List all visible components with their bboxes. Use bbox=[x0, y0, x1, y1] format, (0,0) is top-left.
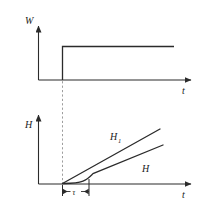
figure-container: W t bbox=[0, 0, 210, 211]
upper-step-curve bbox=[63, 47, 175, 81]
curve-h1-label-text: H bbox=[109, 131, 118, 142]
tau-interval-label: τ bbox=[73, 188, 76, 197]
upper-y-axis-label: W bbox=[25, 15, 35, 26]
curve-h1-label-subscript: 1 bbox=[118, 137, 121, 144]
lower-x-axis-label: t bbox=[182, 189, 185, 200]
curve-h-label-text: H bbox=[141, 163, 150, 174]
upper-plot: W t bbox=[25, 15, 191, 96]
curve-h1-label: H 1 bbox=[109, 131, 121, 144]
upper-x-axis-label: t bbox=[182, 85, 185, 96]
lower-plot: τ H t H 1 H bbox=[24, 115, 191, 200]
lower-y-axis-label: H bbox=[24, 119, 33, 130]
stacked-plots-svg: W t bbox=[0, 0, 210, 211]
